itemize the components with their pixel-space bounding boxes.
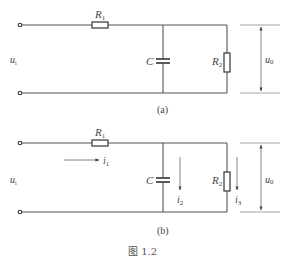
resistor-r1 [92,140,108,146]
circuit-a: R1 C R2 ui u0 (a) [10,8,280,116]
caption-a: (a) [157,104,168,116]
resistor-r2 [224,172,230,191]
figure-caption: 图 1.2 [128,246,157,257]
circuit-b: R1 i1 C i2 R2 i3 ui u0 (b) [10,126,280,237]
output-voltage-label: u0 [265,54,274,66]
input-terminal-bottom [18,210,22,214]
current-i2-label: i2 [177,194,184,207]
circuit-figure: R1 C R2 ui u0 (a) R1 i1 [0,0,292,261]
r2-label: R2 [211,174,223,188]
input-voltage-label: ui [10,54,17,66]
caption-b: (b) [157,225,169,237]
current-i1-label: i1 [103,155,110,168]
resistor-r1 [92,22,108,28]
input-terminal-top [18,23,22,27]
capacitor-label: C [146,55,154,67]
capacitor-label: C [146,174,154,186]
input-terminal-bottom [18,91,22,95]
r2-label: R2 [211,55,223,69]
r1-label: R1 [94,126,106,140]
input-voltage-label: ui [10,174,17,186]
current-i3-label: i3 [235,194,242,207]
input-terminal-top [18,141,22,145]
output-voltage-label: u0 [265,174,274,186]
resistor-r2 [224,53,230,72]
r1-label: R1 [94,8,106,22]
